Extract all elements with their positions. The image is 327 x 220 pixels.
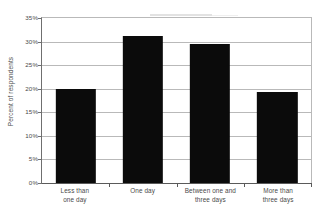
y-tick-label: 0% — [29, 179, 38, 186]
x-tick-label: Less thanone day — [41, 186, 109, 204]
bar — [257, 92, 297, 183]
x-tick-label-line: More than — [263, 187, 293, 194]
x-tick-label: More thanthree days — [244, 186, 312, 204]
bar-series — [42, 18, 311, 183]
y-tick-label: 15% — [25, 108, 38, 115]
y-tick-label: 25% — [25, 61, 38, 68]
bar — [55, 89, 95, 183]
y-tick-label: 10% — [25, 131, 38, 138]
y-tick-label: 35% — [25, 14, 38, 21]
y-axis-tick-labels: 0%5%10%15%20%25%30%35% — [16, 17, 38, 182]
x-tick-label-line: Less than — [61, 187, 90, 194]
scan-artifact — [150, 14, 212, 16]
x-tick-label-line: Between one and — [185, 187, 236, 194]
scan-artifact — [212, 15, 238, 16]
plot-area — [41, 17, 312, 184]
bar-chart-figure: Percent of respondents 0%5%10%15%20%25%3… — [0, 0, 327, 220]
y-tick-label: 30% — [25, 37, 38, 44]
x-tick-label-line: one day — [41, 195, 109, 204]
bar-slot — [244, 18, 311, 183]
x-tick-label: Between one andthree days — [177, 186, 245, 204]
x-tick-label-line: three days — [244, 195, 312, 204]
x-tick-label: One day — [109, 186, 177, 204]
bar — [190, 44, 230, 183]
bar — [123, 36, 163, 183]
x-tick-label-line: three days — [177, 195, 245, 204]
bar-slot — [42, 18, 109, 183]
x-axis-tick-labels: Less thanone dayOne dayBetween one andth… — [41, 186, 312, 204]
bar-slot — [177, 18, 244, 183]
x-tick-label-line: One day — [130, 187, 155, 194]
y-tick-label: 20% — [25, 84, 38, 91]
y-tick-label: 5% — [29, 155, 38, 162]
y-axis-title-text: Percent of respondents — [8, 56, 15, 125]
bar-slot — [109, 18, 176, 183]
y-tick-mark — [38, 183, 42, 184]
